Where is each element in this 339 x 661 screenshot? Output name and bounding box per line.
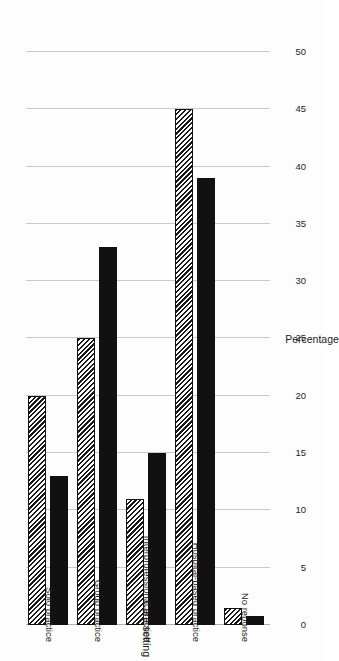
value-tick-label: 5 — [272, 563, 306, 573]
bar-group — [77, 52, 121, 625]
bar-group — [28, 52, 72, 625]
value-tick-label: 10 — [272, 505, 306, 515]
value-tick-label: 40 — [272, 162, 306, 172]
value-tick-label: 50 — [272, 47, 306, 57]
bar-group — [224, 52, 268, 625]
value-tick-label: 30 — [272, 276, 306, 286]
category-label: Hospital-based practice — [191, 543, 202, 642]
value-tick-label: 0 — [272, 620, 306, 630]
value-axis-title: Percentage — [285, 334, 339, 346]
category-label: No reponse — [240, 593, 251, 642]
category-label: Solo practice — [44, 587, 55, 642]
bar-series-2 — [99, 247, 117, 625]
category-label: Group practice — [93, 580, 104, 642]
bar-group — [175, 52, 219, 625]
value-tick-label: 45 — [272, 104, 306, 114]
value-tick-label: 20 — [272, 391, 306, 401]
value-tick-label: 15 — [272, 448, 306, 458]
value-tick-label: 35 — [272, 219, 306, 229]
category-axis-title: Care setting — [141, 600, 153, 657]
bar-series-1 — [224, 608, 242, 625]
